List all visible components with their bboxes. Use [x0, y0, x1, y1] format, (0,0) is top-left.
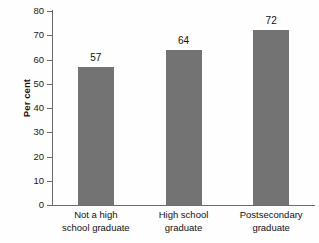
y-tick-mark [47, 35, 52, 36]
bar-chart: Per cent 80706050403020100 576472 Not a … [0, 0, 319, 243]
y-tick-label: 80 [18, 6, 44, 16]
x-axis-category-labels: Not a highschool graduateHigh schoolgrad… [52, 209, 315, 243]
y-axis-tick-labels: 80706050403020100 [18, 11, 44, 205]
bar-value-label: 72 [228, 16, 314, 26]
x-category-label-line: Postsecondary [225, 209, 317, 222]
x-category-label: Not a highschool graduate [50, 209, 142, 234]
x-category-label-line: graduate [138, 222, 230, 235]
y-tick-label: 40 [18, 103, 44, 113]
y-tick-mark [47, 84, 52, 85]
y-tick-label: 0 [18, 200, 44, 210]
bar-group[interactable]: 72 [228, 11, 314, 205]
y-tick-label: 10 [18, 176, 44, 186]
x-category-label-line: Not a high [50, 209, 142, 222]
x-category-label: Postsecondarygraduate [225, 209, 317, 234]
x-category-label-line: High school [138, 209, 230, 222]
bar-value-label: 57 [53, 53, 139, 63]
y-tick-mark [47, 11, 52, 12]
y-tick-mark [47, 157, 52, 158]
bar-value-label: 64 [141, 36, 227, 46]
y-tick-label: 50 [18, 79, 44, 89]
bar[interactable] [166, 50, 202, 205]
plot-area: 576472 [52, 11, 315, 205]
bar-group[interactable]: 57 [53, 11, 139, 205]
x-axis-line [52, 205, 315, 206]
x-category-label-line: school graduate [50, 222, 142, 235]
bar-group[interactable]: 64 [141, 11, 227, 205]
x-category-label: High schoolgraduate [138, 209, 230, 234]
y-tick-label: 30 [18, 127, 44, 137]
x-category-label-line: graduate [225, 222, 317, 235]
y-tick-mark [47, 181, 52, 182]
y-tick-mark [47, 132, 52, 133]
bar[interactable] [78, 67, 114, 205]
y-tick-label: 20 [18, 152, 44, 162]
y-tick-mark [47, 60, 52, 61]
y-tick-label: 70 [18, 30, 44, 40]
bar[interactable] [253, 30, 289, 205]
y-tick-label: 60 [18, 55, 44, 65]
y-tick-mark [47, 205, 52, 206]
y-tick-mark [47, 108, 52, 109]
